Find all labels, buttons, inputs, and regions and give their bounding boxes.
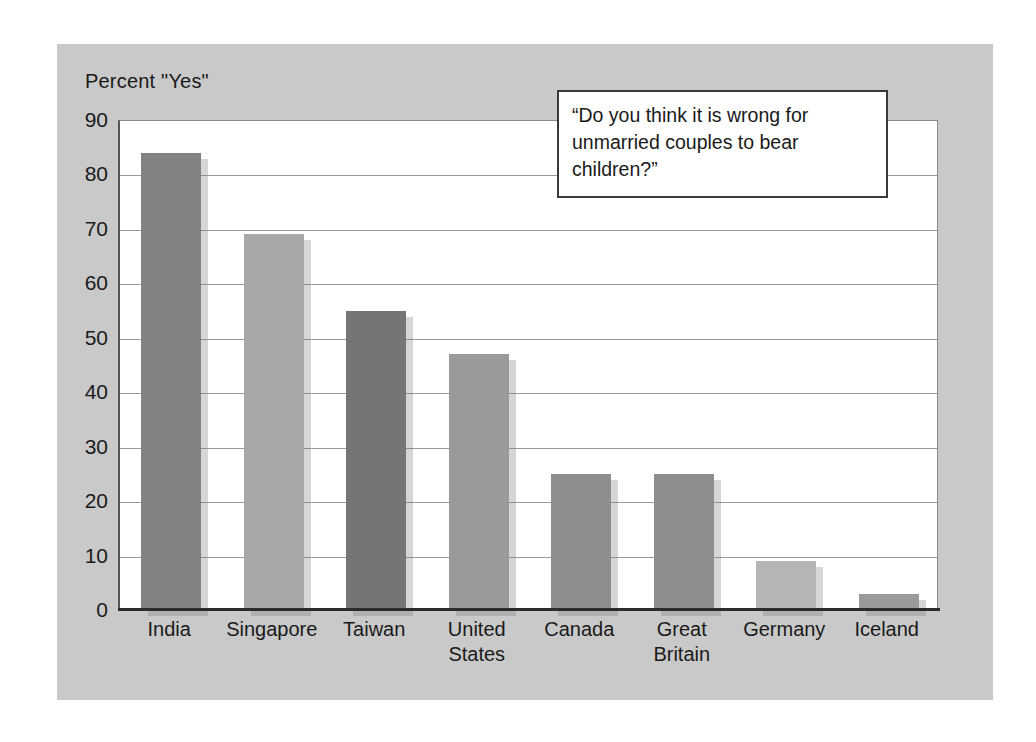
bar-fill [449, 354, 509, 610]
gridline [120, 393, 937, 394]
y-tick-label: 10 [48, 544, 108, 568]
y-tick-label: 0 [48, 598, 108, 622]
bar-fill [244, 234, 304, 610]
x-category-label: Iceland [826, 617, 949, 642]
bar [654, 474, 714, 610]
bar-fill [654, 474, 714, 610]
y-tick-label: 60 [48, 271, 108, 295]
y-axis-title: Percent "Yes" [85, 70, 209, 93]
y-axis-tick-labels: 0102030405060708090 [42, 120, 108, 610]
gridline [120, 448, 937, 449]
y-tick-label: 70 [48, 217, 108, 241]
y-tick-label: 50 [48, 326, 108, 350]
bar [551, 474, 611, 610]
gridline [120, 557, 937, 558]
y-tick-label: 20 [48, 489, 108, 513]
y-tick-label: 90 [48, 108, 108, 132]
bar-fill [551, 474, 611, 610]
gridline [120, 230, 937, 231]
bar [756, 561, 816, 610]
bar-fill [756, 561, 816, 610]
bar-fill [346, 311, 406, 610]
bar [244, 234, 304, 610]
gridline [120, 502, 937, 503]
question-callout-text: “Do you think it is wrong for unmarried … [572, 102, 873, 183]
y-tick-label: 40 [48, 380, 108, 404]
x-axis-line [118, 608, 940, 611]
y-tick-label: 80 [48, 162, 108, 186]
bar [346, 311, 406, 610]
question-callout-box: “Do you think it is wrong for unmarried … [557, 90, 888, 198]
y-tick-label: 30 [48, 435, 108, 459]
gridline [120, 284, 937, 285]
bar [141, 153, 201, 610]
gridline [120, 339, 937, 340]
bar-fill [141, 153, 201, 610]
x-axis-category-labels: IndiaSingaporeTaiwanUnited StatesCanadaG… [118, 617, 938, 697]
bar [449, 354, 509, 610]
